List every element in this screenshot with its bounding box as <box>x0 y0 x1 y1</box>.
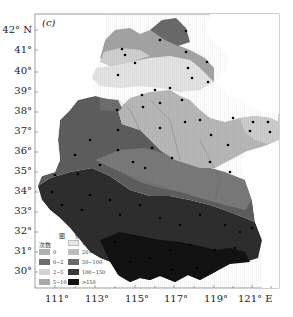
y-label: 41° <box>0 44 32 55</box>
y-label: 35° <box>0 165 32 176</box>
legend-swatch <box>68 240 79 246</box>
legend-swatch <box>39 279 50 285</box>
y-label: 33° <box>0 205 32 216</box>
legend-label: >150 <box>82 279 96 285</box>
legend-item: 0~2 <box>39 258 64 265</box>
legend-label: 0 <box>53 249 56 255</box>
y-label: 32° <box>0 225 32 236</box>
legend-swatch <box>68 279 79 285</box>
legend-item: 0 <box>39 248 56 255</box>
legend: 图 例 次数 0 0~2 2~5 5~10 10~20 20~50 50~100… <box>37 231 107 291</box>
y-label: 31° <box>0 245 32 256</box>
x-label: 113° <box>85 293 109 304</box>
legend-item: 50~100 <box>68 258 102 265</box>
legend-item: >150 <box>68 278 96 285</box>
legend-item: 2~5 <box>39 268 64 275</box>
legend-label: 100~150 <box>82 269 105 275</box>
x-label: 121° E <box>238 293 273 304</box>
legend-label: 2~5 <box>53 269 64 275</box>
legend-label: 10~20 <box>82 240 99 246</box>
legend-swatch <box>68 249 79 255</box>
y-label: 38° <box>0 105 32 116</box>
legend-item: 5~10 <box>39 278 67 285</box>
x-label: 119° <box>204 293 228 304</box>
y-label: 39° <box>0 85 32 96</box>
y-label: 42° N <box>0 24 32 35</box>
legend-label: 5~10 <box>53 279 67 285</box>
y-label: 36° <box>0 145 32 156</box>
panel-label: (c) <box>42 17 55 28</box>
x-label: 115° <box>125 293 149 304</box>
x-label: 117° <box>164 293 188 304</box>
y-label: 40° <box>0 65 32 76</box>
legend-item: 10~20 <box>68 239 99 246</box>
legend-item: 100~150 <box>68 268 105 275</box>
legend-label: 0~2 <box>53 259 64 265</box>
legend-swatch <box>39 249 50 255</box>
legend-label: 50~100 <box>82 259 102 265</box>
x-label: 111° <box>45 293 69 304</box>
legend-swatch <box>68 259 79 265</box>
legend-swatch <box>68 269 79 275</box>
legend-item: 20~50 <box>68 248 99 255</box>
legend-label: 20~50 <box>82 249 99 255</box>
y-label: 34° <box>0 185 32 196</box>
legend-swatch <box>39 269 50 275</box>
y-label: 37° <box>0 125 32 136</box>
legend-swatch <box>39 259 50 265</box>
y-label: 30° <box>0 265 32 276</box>
